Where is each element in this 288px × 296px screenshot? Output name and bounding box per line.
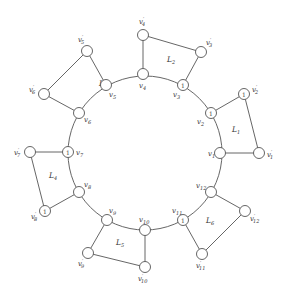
vertex-circle (83, 248, 94, 259)
vertex-v2p: 1 (239, 89, 250, 100)
vertex-mark: 1 (209, 110, 213, 117)
vertex-labels: v1v2v3v4v5v6v7v8v9v10v11v12v′1v′2v′3v′4v… (14, 16, 273, 284)
vertex-v9p (83, 248, 94, 259)
vertex-v2: 1 (206, 108, 217, 119)
vertex-label: v9 (109, 207, 117, 216)
vertices: 111111 (25, 30, 265, 273)
vertex-circle (138, 30, 149, 41)
edge-v2p-v1p (244, 94, 259, 153)
vertex-v8 (74, 187, 85, 198)
vertex-v10p (140, 262, 151, 273)
vertex-circle (140, 225, 151, 236)
vertex-v1p (254, 148, 265, 159)
vertex-label: v′8 (31, 211, 37, 222)
edge-v4p-v3p (143, 35, 201, 52)
edge-v10p-v9p (88, 253, 145, 267)
vertex-v8p: 1 (40, 206, 51, 217)
vertex-label: v4 (139, 82, 146, 91)
vertex-mark: 1 (43, 208, 47, 215)
vertex-v11: 1 (178, 215, 189, 226)
vertex-circle (102, 215, 113, 226)
face-label: L1 (231, 125, 240, 135)
cycle-ring (68, 76, 222, 230)
vertex-v12 (206, 187, 217, 198)
vertex-circle (140, 262, 151, 273)
vertex-v6 (74, 108, 85, 119)
vertex-label: v8 (84, 181, 91, 190)
vertex-v7p (25, 147, 36, 158)
vertex-v3p (196, 47, 207, 58)
face-label: L5 (115, 238, 124, 248)
vertex-label: v10 (139, 216, 150, 225)
vertex-v5p (82, 46, 93, 57)
vertex-circle (74, 108, 85, 119)
vertex-v6p (39, 89, 50, 100)
vertex-circle (206, 187, 217, 198)
vertex-label: v12 (196, 182, 206, 191)
vertex-label: v′4 (139, 16, 145, 27)
vertex-v12p (240, 206, 251, 217)
vertex-mark: 1 (181, 217, 185, 224)
vertex-circle (74, 187, 85, 198)
edge-v6-v6p (44, 94, 79, 113)
vertex-circle (254, 148, 265, 159)
vertex-circle (138, 69, 149, 80)
vertex-label: v′1 (267, 149, 273, 160)
central-cycle (68, 76, 222, 230)
vertex-v4 (138, 69, 149, 80)
face-label: L6 (205, 216, 215, 226)
vertex-v9 (102, 215, 113, 226)
vertex-mark: 1 (181, 82, 185, 89)
vertex-label: v1 (208, 150, 215, 159)
cycle-graph-with-quadrilateral-gadgets: L1L2L3L4L5L6 111111 v1v2v3v4v5v6v7v8v9v1… (0, 0, 288, 296)
vertex-label: v′7 (14, 147, 21, 158)
face-label: L2 (166, 55, 175, 65)
vertex-label: v′5 (78, 34, 84, 45)
edge-v6p-v5p (44, 51, 87, 94)
vertex-label: v11 (172, 207, 182, 216)
edge-v8p-v7p (30, 152, 45, 211)
vertex-label: v′3 (206, 37, 212, 48)
vertex-label: v′6 (29, 84, 36, 95)
vertex-circle (82, 46, 93, 57)
vertex-v11p (197, 249, 208, 260)
vertex-circle (215, 148, 226, 159)
vertex-v3: 1 (178, 80, 189, 91)
vertex-label: v3 (173, 91, 180, 100)
vertex-circle (240, 206, 251, 217)
vertex-label: v′10 (138, 273, 148, 284)
vertex-circle (101, 80, 112, 91)
vertex-v10 (140, 225, 151, 236)
vertex-v4p (138, 30, 149, 41)
vertex-mark: 1 (66, 149, 70, 156)
vertex-v5 (101, 80, 112, 91)
face-label: L4 (48, 171, 57, 181)
graph-diagram: L1L2L3L4L5L6 111111 v1v2v3v4v5v6v7v8v9v1… (0, 0, 288, 296)
vertex-label: v2 (197, 118, 204, 127)
vertex-mark: 1 (242, 91, 246, 98)
vertex-circle (197, 249, 208, 260)
vertex-label: v′9 (78, 258, 85, 269)
vertex-circle (25, 147, 36, 158)
vertex-circle (196, 47, 207, 58)
vertex-label: v′12 (250, 213, 259, 224)
vertex-v1 (215, 148, 226, 159)
vertex-label: v5 (109, 91, 116, 100)
vertex-circle (39, 89, 50, 100)
vertex-v7: 1 (63, 147, 74, 158)
vertex-label: v′11 (196, 260, 205, 271)
vertex-label: v6 (84, 116, 92, 125)
vertex-label: v′2 (252, 84, 258, 95)
vertex-label: v7 (76, 149, 84, 158)
